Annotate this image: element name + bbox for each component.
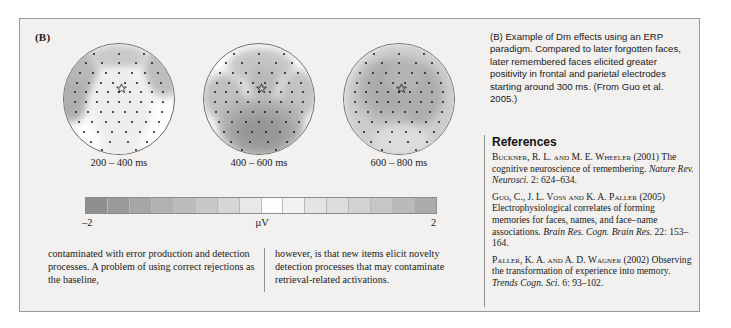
reference-year: (2001) (631, 151, 661, 162)
colorbar-cell-14 (393, 198, 415, 213)
electrode-dot (431, 62, 433, 64)
electrode-dot (228, 82, 230, 84)
electrode-dot (381, 62, 383, 64)
electrode-dot (158, 121, 160, 123)
body-text-columns: contaminated with error production and d… (48, 247, 478, 299)
electrode-dot (85, 91, 87, 93)
electrode-dot (409, 101, 411, 103)
electrode-dots-1 (204, 44, 314, 154)
electrode-dot (415, 149, 417, 151)
reference-authors: Paller, K. A. and A. D. Wagner (492, 254, 621, 265)
electrode-dot (118, 62, 120, 64)
electrode-dot (424, 72, 426, 74)
panel-label-b: (B) (35, 31, 50, 43)
electrode-dot (291, 91, 293, 93)
topomap-label-1: 400 – 600 ms (200, 157, 318, 168)
electrode-dot (145, 121, 147, 123)
scalp-circle-1 (203, 43, 315, 155)
electrode-dot (264, 111, 266, 113)
electrode-dot (302, 101, 304, 103)
colorbar-cell-0 (86, 198, 108, 213)
colorbar-area: –2 µV 2 (58, 197, 466, 237)
reference-item: Guo, C., J. L. Voss and K. A. Paller (20… (492, 191, 694, 249)
reference-item: Buckner, R. L. and M. E. Wheeler (2001) … (492, 151, 694, 186)
electrode-dot (140, 91, 142, 93)
electrode-dot (298, 121, 300, 123)
electrode-dot (97, 131, 99, 133)
electrode-dot (358, 121, 360, 123)
electrode-dot (302, 91, 304, 93)
electrode-dot (236, 101, 238, 103)
reference-journal: Brain Res. Cogn. Brain Res. (543, 226, 652, 237)
electrode-dot (431, 101, 433, 103)
electrode-dot (247, 101, 249, 103)
electrode-dot (368, 82, 370, 84)
colorbar-cell-7 (240, 198, 262, 213)
electrode-dot (389, 141, 391, 143)
electrode-dot (258, 62, 260, 64)
electrode-dot (96, 91, 98, 93)
colorbar-cell-9 (283, 198, 305, 213)
electrode-dot (241, 62, 243, 64)
electrode-dot (398, 121, 400, 123)
colorbar-cell-8 (262, 198, 284, 213)
electrode-dot (433, 131, 435, 133)
references-divider (484, 135, 485, 307)
references-list: Buckner, R. L. and M. E. Wheeler (2001) … (492, 151, 694, 289)
electrode-dot (131, 72, 133, 74)
colorbar (85, 197, 437, 214)
electrode-dot (267, 141, 269, 143)
reference-authors: Buckner, R. L. and M. E. Wheeler (492, 151, 631, 162)
electrode-dot (140, 101, 142, 103)
electrode-dot (148, 82, 150, 84)
electrode-dot (265, 131, 267, 133)
scalp-circle-2 (343, 43, 455, 155)
electrode-dot (275, 149, 277, 151)
body-column-left: contaminated with error production and d… (48, 247, 256, 287)
electrode-dot (252, 111, 254, 113)
electrode-dot (240, 82, 242, 84)
electrode-dot (269, 101, 271, 103)
electrode-dot (359, 72, 361, 74)
electrode-dot (143, 53, 145, 55)
colorbar-cell-12 (349, 198, 371, 213)
electrode-dot (398, 62, 400, 64)
electrode-dot (118, 121, 120, 123)
electrode-dot (96, 101, 98, 103)
electrode-dot (297, 72, 299, 74)
electrode-dot (144, 72, 146, 74)
electrode-dot (377, 131, 379, 133)
electrode-dot (74, 91, 76, 93)
electrode-dot (398, 101, 400, 103)
electrode-dot (157, 72, 159, 74)
electrode-dot (283, 53, 285, 55)
electrode-dot (218, 121, 220, 123)
electrode-dot (245, 72, 247, 74)
electrode-dot (146, 141, 148, 143)
electrode-dot (437, 72, 439, 74)
electrode-dot (237, 131, 239, 133)
reference-authors: Guo, C., J. L. Voss and K. A. Paller (492, 191, 637, 202)
electrode-dot (258, 121, 260, 123)
star-marker-icon (256, 83, 267, 94)
electrode-dot (280, 91, 282, 93)
colorbar-cell-15 (415, 198, 436, 213)
electrode-dot (280, 101, 282, 103)
electrode-dot (88, 82, 90, 84)
electrode-dot (367, 111, 369, 113)
reference-year: (2005) (637, 191, 665, 202)
electrode-dot (151, 91, 153, 93)
electrode-dot (398, 72, 400, 74)
reference-journal: Trends Cogn. Sci. (492, 277, 560, 288)
colorbar-cell-11 (327, 198, 349, 213)
electrode-dot (78, 121, 80, 123)
electrode-dot (380, 82, 382, 84)
colorbar-cell-10 (305, 198, 327, 213)
figure-box: (B) 200 – 400 ms (19, 18, 700, 312)
reference-year: (2002) (621, 254, 651, 265)
electrode-dot (279, 131, 281, 133)
electrode-dot (420, 101, 422, 103)
electrode-dot (392, 82, 394, 84)
electrode-dot (419, 131, 421, 133)
reference-locator: 2: 624–634. (529, 174, 577, 185)
